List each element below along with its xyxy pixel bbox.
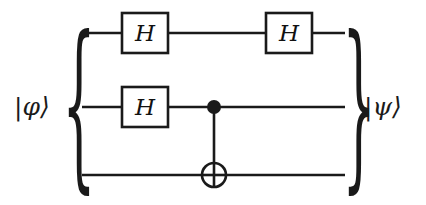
input-state-ket-label: |φ⟩: [14, 94, 50, 119]
cnot-control-dot[interactable]: [207, 100, 221, 114]
quantum-circuit-diagram: H H H { } |φ⟩ |ψ⟩: [0, 0, 426, 205]
output-state-ket-label: |ψ⟩: [364, 94, 402, 119]
left-curly-brace: {: [62, 14, 95, 195]
hadamard-gate-label: H: [135, 96, 155, 119]
hadamard-gate-label: H: [135, 22, 155, 45]
hadamard-gate-label: H: [279, 22, 299, 45]
cnot-target-xor-icon[interactable]: [202, 163, 226, 187]
